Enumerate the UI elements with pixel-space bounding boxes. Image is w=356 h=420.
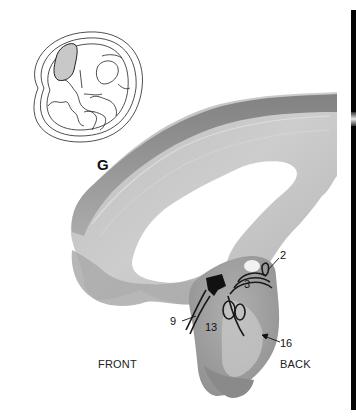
label-16: 16 xyxy=(280,338,292,349)
tissue-section-photo xyxy=(0,0,356,420)
label-9: 9 xyxy=(170,316,176,327)
adjacent-panel-edge-highlight xyxy=(351,112,356,126)
adjacent-panel-edge xyxy=(351,10,356,410)
label-13: 13 xyxy=(205,322,217,333)
label-2: 2 xyxy=(280,250,286,261)
orientation-back-label: BACK xyxy=(280,358,311,370)
orientation-front-label: FRONT xyxy=(98,358,137,370)
anatomical-figure: G xyxy=(0,0,356,420)
label-3: 3 xyxy=(244,279,250,290)
